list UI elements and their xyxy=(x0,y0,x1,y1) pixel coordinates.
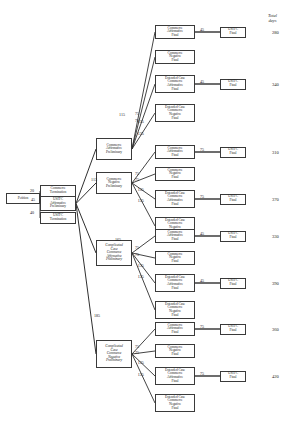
edge-label-commerce-negative-preliminary-extended_affirmative_final-final: 75 xyxy=(200,194,204,199)
node-complicated-commerce-negative-preliminary-extended_affirmative_final-label: Extended Case Commerce Affirmative Final xyxy=(165,369,185,384)
node-commerce-affirmative-preliminary-commerce_affirmative_final: Commerce Affirmative Final xyxy=(155,25,195,39)
node-commerce-affirmative-preliminary-commerce_affirmative_final-label: Commerce Affirmative Final xyxy=(167,27,183,38)
node-stage1-2-label: USITC Termination xyxy=(50,214,66,221)
node-commerce-affirmative-preliminary-extended_negative_final: Extended Case Commerce Negative Final xyxy=(155,104,195,122)
edge-label-complicated-commerce-negative-preliminary-extended_negative_final: 135 xyxy=(138,372,144,377)
edge-label-complicated-commerce-affirmative-preliminary-commerce_negative_final: 75 xyxy=(135,252,139,257)
node-commerce-negative-preliminary-extended_affirmative_final-usitc-final: USITC Final xyxy=(220,194,246,205)
node-complicated-commerce-negative-preliminary-extended_affirmative_final: Extended Case Commerce Affirmative Final xyxy=(155,367,195,385)
node-commerce-affirmative-preliminary-extended_negative_final-label: Extended Case Commerce Negative Final xyxy=(165,106,185,121)
edge-label-complicated-commerce-affirmative-preliminary-commerce_affirmative_final-final: 45 xyxy=(200,231,204,236)
totals-column-header: Total days xyxy=(268,13,277,23)
edge-label-commerce-affirmative-preliminary-commerce_affirmative_final-final: 45 xyxy=(200,27,204,32)
edge-label-stage2-0: 115 xyxy=(119,112,125,117)
node-commerce-affirmative-preliminary-extended_affirmative_final-label: Extended Case Commerce Affirmative Final xyxy=(165,77,185,92)
edge-label-complicated-commerce-affirmative-preliminary-extended_affirmative_final: 135 xyxy=(138,263,144,268)
node-complicated-commerce-negative-preliminary-commerce_negative_final-label: Commerce Negative Final xyxy=(168,346,183,357)
node-commerce-negative-preliminary-commerce_negative_final-label: Commerce Negative Final xyxy=(168,169,183,180)
node-stage2-0-label: Commerce Affirmative Preliminary xyxy=(106,144,122,155)
node-commerce-negative-preliminary-extended_affirmative_final: Extended Case Commerce Affirmative Final xyxy=(155,190,195,208)
node-stage2-1-label: Commerce Negative Preliminary xyxy=(106,178,122,189)
total-days-commerce-affirmative-preliminary-commerce_affirmative_final: 280 xyxy=(272,30,279,35)
node-complicated-commerce-negative-preliminary-commerce_affirmative_final: Commerce Affirmative Final xyxy=(155,322,195,336)
edge-label-commerce-negative-preliminary-commerce_affirmative_final-final: 75 xyxy=(200,147,204,152)
node-commerce-negative-preliminary-extended_affirmative_final-usitc-final-label: USITC Final xyxy=(228,195,238,202)
edge-label-stage2-2: 165 xyxy=(115,237,121,242)
total-days-complicated-commerce-negative-preliminary-extended_affirmative_final: 420 xyxy=(272,374,279,379)
node-complicated-commerce-negative-preliminary-extended_affirmative_final-usitc-final: USITC Final xyxy=(220,371,246,382)
node-complicated-commerce-affirmative-preliminary-extended_affirmative_final: Extended Case Commerce Affirmative Final xyxy=(155,274,195,292)
total-days-complicated-commerce-affirmative-preliminary-extended_affirmative_final: 390 xyxy=(272,281,279,286)
node-stage2-3-label: Complicated Case Commerce Negative Preli… xyxy=(105,345,122,363)
node-commerce-negative-preliminary-commerce_affirmative_final: Commerce Affirmative Final xyxy=(155,145,195,159)
node-commerce-affirmative-preliminary-extended_affirmative_final-usitc-final: USITC Final xyxy=(220,79,246,90)
edge-label-complicated-commerce-negative-preliminary-extended_affirmative_final: 135 xyxy=(138,360,144,365)
page-title-strip xyxy=(0,0,293,9)
node-complicated-commerce-affirmative-preliminary-commerce_negative_final-label: Commerce Negative Final xyxy=(168,253,183,264)
node-complicated-commerce-affirmative-preliminary-extended_affirmative_final-usitc-final: USITC Final xyxy=(220,278,246,289)
edge-label-commerce-negative-preliminary-commerce_affirmative_final: 75 xyxy=(135,171,139,176)
edge-label-commerce-affirmative-preliminary-extended_affirmative_final-final: 45 xyxy=(200,79,204,84)
node-stage2-2: Complicated Case Commerce Affirmative Pr… xyxy=(96,240,132,266)
edge-label-commerce-negative-preliminary-extended_negative_final: 135 xyxy=(138,198,144,203)
edge-label-complicated-commerce-affirmative-preliminary-extended_affirmative_final-final: 45 xyxy=(200,278,204,283)
node-commerce-affirmative-preliminary-commerce_negative_final-label: Commerce Negative Final xyxy=(168,52,183,63)
node-complicated-commerce-negative-preliminary-extended_affirmative_final-usitc-final-label: USITC Final xyxy=(228,372,238,379)
node-stage1-1-label: USITC Affirmative Preliminary xyxy=(50,198,66,209)
edge-label-complicated-commerce-affirmative-preliminary-commerce_affirmative_final: 75 xyxy=(135,245,139,250)
node-commerce-affirmative-preliminary-extended_affirmative_final-usitc-final-label: USITC Final xyxy=(228,80,238,87)
node-complicated-commerce-negative-preliminary-commerce_affirmative_final-usitc-final: USITC Final xyxy=(220,324,246,335)
node-petition-label: Petition xyxy=(18,197,28,201)
total-days-complicated-commerce-affirmative-preliminary-commerce_affirmative_final: 330 xyxy=(272,234,279,239)
node-complicated-commerce-affirmative-preliminary-commerce_affirmative_final-usitc-final: USITC Final xyxy=(220,231,246,242)
node-commerce-negative-preliminary-commerce_affirmative_final-usitc-final-label: USITC Final xyxy=(228,148,238,155)
edge-label-commerce-negative-preliminary-commerce_negative_final: 75 xyxy=(135,177,139,182)
node-complicated-commerce-affirmative-preliminary-commerce_affirmative_final-usitc-final-label: USITC Final xyxy=(228,232,238,239)
node-complicated-commerce-negative-preliminary-commerce_affirmative_final-label: Commerce Affirmative Final xyxy=(167,324,183,335)
edge-label-stage1-0: 20 xyxy=(30,188,34,193)
node-stage1-0-label: Commerce Termination xyxy=(50,187,66,194)
edge-label-complicated-commerce-negative-preliminary-commerce_negative_final: 75 xyxy=(135,350,139,355)
edge-label-commerce-negative-preliminary-extended_affirmative_final: 135 xyxy=(138,187,144,192)
node-stage1-1: USITC Affirmative Preliminary xyxy=(40,196,76,211)
edge-label-complicated-commerce-affirmative-preliminary-extended_negative_final: 135 xyxy=(138,274,144,279)
diagram-canvas: Total days PetitionCommerce TerminationU… xyxy=(0,0,293,433)
node-stage2-1: Commerce Negative Preliminary xyxy=(96,172,132,194)
node-complicated-commerce-affirmative-preliminary-extended_affirmative_final-usitc-final-label: USITC Final xyxy=(228,279,238,286)
node-stage2-0: Commerce Affirmative Preliminary xyxy=(96,138,132,160)
node-complicated-commerce-affirmative-preliminary-extended_negative_final: Extended Case Commerce Negative Final xyxy=(155,301,195,319)
node-complicated-commerce-affirmative-preliminary-commerce_affirmative_final: Commerce Affirmative Final xyxy=(155,229,195,243)
node-complicated-commerce-affirmative-preliminary-extended_negative_final-label: Extended Case Commerce Negative Final xyxy=(165,303,185,318)
node-complicated-commerce-affirmative-preliminary-extended_affirmative_final-label: Extended Case Commerce Affirmative Final xyxy=(165,276,185,291)
total-days-commerce-negative-preliminary-extended_affirmative_final: 370 xyxy=(272,197,279,202)
edge-label-stage1-2: 40 xyxy=(30,210,34,215)
node-commerce-negative-preliminary-extended_affirmative_final-label: Extended Case Commerce Affirmative Final xyxy=(165,192,185,207)
node-commerce-affirmative-preliminary-commerce_affirmative_final-usitc-final-label: USITC Final xyxy=(228,28,238,35)
total-days-commerce-negative-preliminary-commerce_affirmative_final: 310 xyxy=(272,150,279,155)
edge-label-commerce-affirmative-preliminary-extended_negative_final: 135 xyxy=(138,131,144,136)
node-complicated-commerce-negative-preliminary-commerce_negative_final: Commerce Negative Final xyxy=(155,344,195,358)
edge-label-stage2-1: 115 xyxy=(91,177,97,182)
node-complicated-commerce-negative-preliminary-extended_negative_final: Extended Case Commerce Negative Final xyxy=(155,394,195,412)
node-commerce-affirmative-preliminary-commerce_affirmative_final-usitc-final: USITC Final xyxy=(220,27,246,38)
node-stage2-3: Complicated Case Commerce Negative Preli… xyxy=(96,340,132,368)
edge-label-stage2-3: 185 xyxy=(94,313,100,318)
edge-label-complicated-commerce-negative-preliminary-extended_affirmative_final-final: 75 xyxy=(200,371,204,376)
node-stage2-2-label: Complicated Case Commerce Affirmative Pr… xyxy=(105,244,122,262)
edge-label-stage1-1: 45 xyxy=(31,197,35,202)
node-complicated-commerce-affirmative-preliminary-commerce_negative_final: Commerce Negative Final xyxy=(155,251,195,265)
edge-label-commerce-affirmative-preliminary-commerce_affirmative_final: 75 xyxy=(135,111,139,116)
total-days-complicated-commerce-negative-preliminary-commerce_affirmative_final: 360 xyxy=(272,327,279,332)
edge-label-commerce-affirmative-preliminary-extended_affirmative_final: 135 xyxy=(138,119,144,124)
node-commerce-negative-preliminary-commerce_negative_final: Commerce Negative Final xyxy=(155,167,195,181)
node-commerce-negative-preliminary-commerce_affirmative_final-usitc-final: USITC Final xyxy=(220,147,246,158)
edge-label-complicated-commerce-negative-preliminary-commerce_affirmative_final: 75 xyxy=(135,344,139,349)
node-complicated-commerce-negative-preliminary-extended_negative_final-label: Extended Case Commerce Negative Final xyxy=(165,396,185,411)
node-stage1-2: USITC Termination xyxy=(40,212,76,224)
node-commerce-affirmative-preliminary-extended_affirmative_final: Extended Case Commerce Affirmative Final xyxy=(155,75,195,93)
edge-label-complicated-commerce-negative-preliminary-commerce_affirmative_final-final: 75 xyxy=(200,324,204,329)
node-complicated-commerce-affirmative-preliminary-commerce_affirmative_final-label: Commerce Affirmative Final xyxy=(167,231,183,242)
node-commerce-negative-preliminary-commerce_affirmative_final-label: Commerce Affirmative Final xyxy=(167,147,183,158)
node-commerce-affirmative-preliminary-commerce_negative_final: Commerce Negative Final xyxy=(155,50,195,64)
total-days-commerce-affirmative-preliminary-extended_affirmative_final: 340 xyxy=(272,82,279,87)
